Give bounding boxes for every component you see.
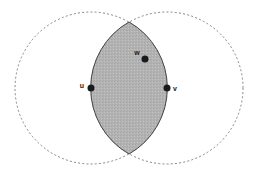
label-w: w (133, 49, 140, 56)
diagram-canvas: u v w (0, 0, 254, 173)
label-u: u (80, 82, 84, 89)
label-v: v (173, 85, 177, 92)
shaded-lens-region (91, 22, 168, 154)
point-w (142, 56, 149, 63)
point-u (88, 85, 95, 92)
lune-diagram: u v w (0, 0, 254, 173)
point-v (164, 85, 171, 92)
